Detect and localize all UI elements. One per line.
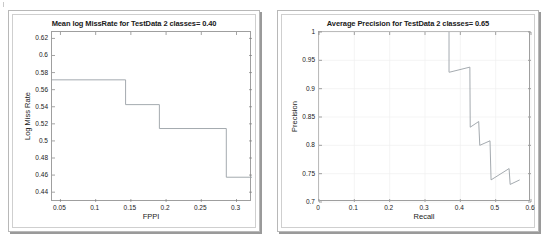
ytick-label: 0.8 xyxy=(286,141,315,148)
ytick-label: 0.9 xyxy=(286,84,315,91)
xtick-label: 0.6 xyxy=(525,204,534,211)
ytick-label: 1 xyxy=(286,28,315,35)
ytick-label: 0.6 xyxy=(19,51,48,58)
figure-canvas: Mean log MissRate for TestData 2 classes… xyxy=(0,0,546,238)
xtick-label: 0.05 xyxy=(53,204,66,211)
miss-rate-x-axis-label: FPPI xyxy=(51,212,251,221)
xtick-label: 0.1 xyxy=(349,204,358,211)
ytick-label: 0.75 xyxy=(286,169,315,176)
miss-rate-step-curve xyxy=(52,80,252,177)
ytick-label: 0.44 xyxy=(19,188,48,195)
miss-rate-title: Mean log MissRate for TestData 2 classes… xyxy=(13,19,255,28)
ytick-label: 0.58 xyxy=(19,68,48,75)
xtick-label: 0.1 xyxy=(90,204,99,211)
ytick-label: 0.95 xyxy=(286,56,315,63)
miss-rate-y-axis-label: Log Miss Rate xyxy=(23,92,32,140)
xtick-label: 0.3 xyxy=(231,204,240,211)
ytick-label: 0.7 xyxy=(286,198,315,205)
miss-rate-panel-inner: Mean log MissRate for TestData 2 classes… xyxy=(12,14,256,228)
xtick-label: 0.5 xyxy=(490,204,499,211)
miss-rate-axes xyxy=(51,31,251,201)
precision-recall-gridlines xyxy=(319,32,531,202)
precision-recall-plot-area xyxy=(319,32,531,202)
precision-recall-curve xyxy=(449,32,520,184)
miss-rate-panel: Mean log MissRate for TestData 2 classes… xyxy=(8,10,260,232)
ytick-label: 0.46 xyxy=(19,171,48,178)
xtick-label: 0.25 xyxy=(194,204,207,211)
ytick-label: 0.48 xyxy=(19,154,48,161)
xtick-label: 0.3 xyxy=(419,204,428,211)
xtick-label: 0.4 xyxy=(455,204,464,211)
precision-recall-panel: Average Precision for TestData 2 classes… xyxy=(277,10,539,232)
xtick-label: 0 xyxy=(316,204,320,211)
precision-recall-axes xyxy=(318,31,530,201)
miss-rate-plot-area xyxy=(52,32,252,202)
precision-recall-panel-inner: Average Precision for TestData 2 classes… xyxy=(281,14,535,228)
precision-recall-y-axis-label: Precision xyxy=(290,101,299,132)
stray-mark xyxy=(3,2,4,7)
xtick-label: 0.15 xyxy=(124,204,137,211)
xtick-label: 0.2 xyxy=(161,204,170,211)
precision-recall-title: Average Precision for TestData 2 classes… xyxy=(282,19,534,28)
precision-recall-x-axis-label: Recall xyxy=(318,212,530,221)
xtick-label: 0.2 xyxy=(384,204,393,211)
ytick-label: 0.62 xyxy=(19,34,48,41)
